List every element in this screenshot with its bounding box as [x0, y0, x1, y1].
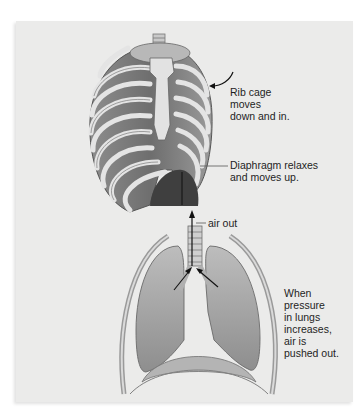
- diaphragm-label-line: Diaphragm relaxes: [230, 159, 318, 171]
- rib-cage-label-line: moves: [230, 98, 290, 110]
- rib-cage-illustration: [90, 34, 212, 212]
- lungs-pressure-label: When pressure in lungs increases, air is…: [284, 287, 339, 359]
- rib-cage-label: Rib cage moves down and in.: [230, 86, 290, 122]
- lungs-label-line: When: [284, 287, 339, 299]
- air-out-label-text: air out: [208, 217, 237, 229]
- lungs-label-line: pressure: [284, 299, 339, 311]
- lungs-label-line: in lungs: [284, 311, 339, 323]
- diaphragm-label-line: and moves up.: [230, 171, 318, 183]
- lungs-label-line: pushed out.: [284, 347, 339, 359]
- rib-cage-label-line: Rib cage: [230, 86, 290, 98]
- lungs-label-line: air is: [284, 335, 339, 347]
- diaphragm-label: Diaphragm relaxes and moves up.: [230, 159, 318, 183]
- rib-cage-label-line: down and in.: [230, 110, 290, 122]
- air-out-label: air out: [208, 217, 237, 229]
- lungs-illustration: [122, 226, 276, 394]
- lungs-label-line: increases,: [284, 323, 339, 335]
